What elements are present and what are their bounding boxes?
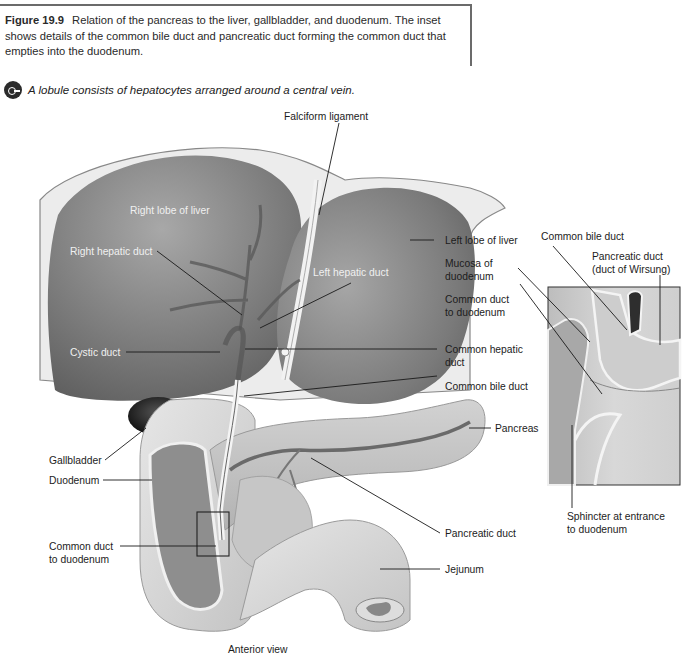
inset-label-pancreatic-duct: Pancreatic duct(duct of Wirsung) xyxy=(592,250,670,276)
label-line: Common hepatic xyxy=(445,344,523,355)
label-line: Pancreatic duct xyxy=(592,251,663,262)
inset-label-common-duct: Common ductto duodenum xyxy=(445,293,509,319)
label-left-lobe: Left lobe of liver xyxy=(445,234,518,247)
label-line: Common duct xyxy=(49,541,113,552)
label-anterior-view: Anterior view xyxy=(228,643,288,656)
label-line: to duodenum xyxy=(49,554,109,565)
label-duodenum: Duodenum xyxy=(49,474,99,487)
label-falciform-ligament: Falciform ligament xyxy=(284,110,368,123)
label-line: Mucosa of xyxy=(445,258,493,269)
anatomy-illustration xyxy=(0,0,697,669)
label-right-hepatic-duct: Right hepatic duct xyxy=(70,245,152,258)
label-line: (duct of Wirsung) xyxy=(592,264,670,275)
label-line: Sphincter at entrance xyxy=(567,511,665,522)
label-jejunum: Jejunum xyxy=(445,563,484,576)
inset-label-common-bile-duct: Common bile duct xyxy=(541,230,624,243)
label-common-duct: Common ductto duodenum xyxy=(49,540,113,566)
label-common-bile-duct: Common bile duct xyxy=(445,380,528,393)
label-right-lobe: Right lobe of liver xyxy=(130,204,210,217)
label-line: Common duct xyxy=(445,294,509,305)
label-cystic-duct: Cystic duct xyxy=(70,346,120,359)
label-line: duct xyxy=(445,357,464,368)
anatomy-figure: Falciform ligament Right lobe of liver R… xyxy=(0,0,697,669)
inset-label-sphincter: Sphincter at entranceto duodenum xyxy=(567,510,665,536)
right-lobe-of-liver xyxy=(48,155,301,400)
label-common-hepatic-duct: Common hepaticduct xyxy=(445,343,523,369)
label-pancreatic-duct: Pancreatic duct xyxy=(445,527,516,540)
label-line: to duodenum xyxy=(445,307,505,318)
inset-label-mucosa: Mucosa ofduodenum xyxy=(445,257,494,283)
label-pancreas: Pancreas xyxy=(495,422,539,435)
label-line: duodenum xyxy=(445,271,494,282)
label-left-hepatic-duct: Left hepatic duct xyxy=(313,266,389,279)
label-gallbladder: Gallbladder xyxy=(49,454,102,467)
label-line: to duodenum xyxy=(567,524,627,535)
